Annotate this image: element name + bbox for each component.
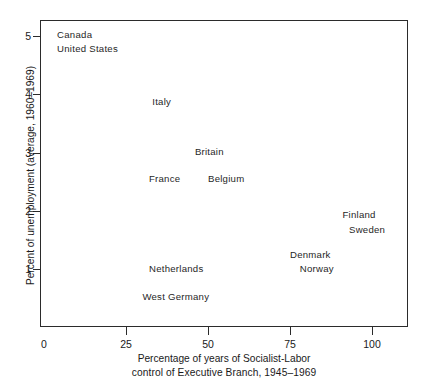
- x-tick-label: 50: [193, 338, 223, 350]
- data-point-belgium: Belgium: [208, 174, 244, 184]
- data-point-france: France: [149, 174, 180, 184]
- x-axis-title-line-1: Percentage of years of Socialist-Labor: [40, 352, 408, 366]
- data-point-britain: Britain: [195, 147, 224, 157]
- data-point-denmark: Denmark: [290, 250, 331, 260]
- data-point-canada: Canada: [57, 30, 92, 40]
- data-point-united-states: United States: [57, 44, 118, 54]
- x-tick-mark: [372, 327, 373, 335]
- x-tick-label: 100: [357, 338, 387, 350]
- x-tick-mark: [126, 327, 127, 335]
- x-tick-label: 75: [275, 338, 305, 350]
- scatter-plot-figure: 5 4 3 2 1 0 25 50 75 100 Canada United S…: [0, 0, 435, 378]
- x-tick-mark: [290, 327, 291, 335]
- x-tick-label: 0: [29, 338, 59, 350]
- data-point-italy: Italy: [152, 97, 171, 107]
- data-point-netherlands: Netherlands: [149, 264, 203, 274]
- y-axis-title: Percent of unemployment (average, 1960–1…: [25, 16, 36, 336]
- x-tick-mark: [208, 327, 209, 335]
- data-point-sweden: Sweden: [349, 225, 385, 235]
- data-point-west-germany: West Germany: [142, 292, 209, 302]
- x-tick-label: 25: [111, 338, 141, 350]
- x-axis-title: Percentage of years of Socialist-Labor c…: [40, 352, 408, 378]
- data-point-finland: Finland: [342, 210, 375, 220]
- x-axis-title-line-2: control of Executive Branch, 1945–1969: [40, 366, 408, 378]
- data-point-norway: Norway: [300, 264, 334, 274]
